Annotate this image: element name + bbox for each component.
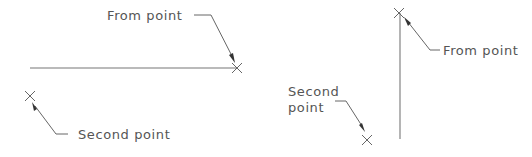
second-point-marker-icon xyxy=(25,91,35,101)
from-point-marker-icon xyxy=(394,8,404,18)
from-point-leader xyxy=(194,15,235,63)
second-point-marker-icon xyxy=(362,135,372,145)
right-example: From point Second point xyxy=(288,8,519,145)
from-point-label: From point xyxy=(107,8,183,23)
arrowhead-icon xyxy=(32,102,37,111)
second-point-label-line1: Second xyxy=(288,84,339,99)
second-point-leader xyxy=(32,102,68,134)
arrowhead-icon xyxy=(229,53,235,63)
second-point-label: Second point xyxy=(78,127,170,142)
left-example: From point Second point xyxy=(25,8,242,142)
from-point-leader xyxy=(404,17,440,50)
from-point-label: From point xyxy=(443,43,519,58)
second-point-leader xyxy=(335,101,365,132)
second-point-label-line2: point xyxy=(288,100,324,115)
arrowhead-icon xyxy=(359,123,365,132)
offset-points-diagram: From point Second point From point xyxy=(0,0,532,157)
